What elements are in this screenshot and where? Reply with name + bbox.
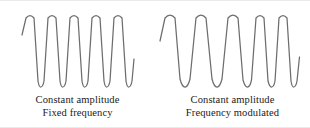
caption-frequency-modulated: Constant amplitude Frequency modulated bbox=[155, 93, 310, 119]
caption-frequency-modulated-line1: Constant amplitude bbox=[155, 93, 310, 106]
waveform-fixed-frequency bbox=[0, 5, 155, 93]
waveform-frequency-modulated bbox=[155, 5, 310, 93]
caption-frequency-modulated-line2: Frequency modulated bbox=[155, 106, 310, 119]
panel-fixed-frequency: Constant amplitude Fixed frequency bbox=[0, 1, 155, 128]
waveform-fixed-frequency-path bbox=[22, 16, 134, 88]
panel-frequency-modulated: Constant amplitude Frequency modulated bbox=[155, 1, 310, 128]
waveform-frequency-modulated-path bbox=[160, 15, 300, 87]
caption-fixed-frequency-line1: Constant amplitude bbox=[0, 93, 155, 106]
caption-fixed-frequency-line2: Fixed frequency bbox=[0, 106, 155, 119]
caption-fixed-frequency: Constant amplitude Fixed frequency bbox=[0, 93, 155, 119]
waveform-frequency-modulated-svg bbox=[155, 5, 310, 93]
waveform-fixed-frequency-svg bbox=[0, 5, 155, 93]
figure-root: Constant amplitude Fixed frequency Const… bbox=[0, 0, 310, 128]
